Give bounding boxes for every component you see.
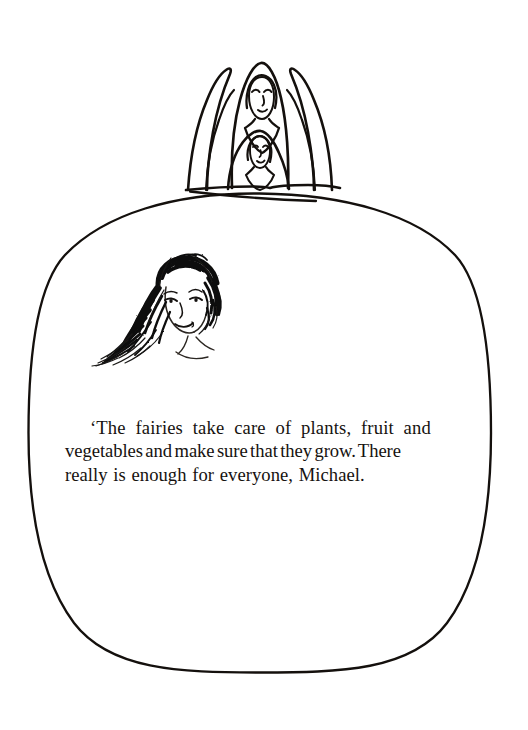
tall-hooded-fairy-collar: [245, 119, 279, 153]
girl-hair-wisps: [92, 258, 217, 366]
passage-text: ‘The fairies take care of plants, fruit …: [65, 416, 465, 486]
passage-line-1: ‘The fairies take care of plants, fruit …: [65, 416, 465, 439]
girl-shoulder-line: [196, 337, 214, 350]
small-hooded-fairy-left-eye: [253, 146, 258, 148]
small-hooded-fairy-right-eye: [263, 146, 268, 148]
girl-left-eye: [165, 298, 177, 301]
girl-face-outline: [165, 287, 194, 333]
illustration-layer: [0, 0, 528, 730]
left-wing: [188, 69, 231, 190]
hill-ridge-line: [186, 185, 340, 190]
hill-ridge-line-lower: [190, 192, 316, 202]
small-hooded-fairy-nose: [260, 150, 262, 157]
right-wing-inner-fold: [287, 90, 315, 190]
girl-neck: [178, 336, 188, 354]
tall-hooded-fairy-nose: [263, 96, 265, 106]
tall-hooded-fairy-left-eye: [252, 90, 260, 92]
left-wing-inner-fold: [206, 90, 234, 190]
small-hooded-fairy-hood: [247, 136, 271, 162]
girl-portrait-sketch: [92, 254, 221, 366]
tall-hooded-fairy-right-eye: [264, 90, 272, 92]
right-wing: [290, 69, 332, 190]
tall-hooded-fairy-mouth: [258, 110, 267, 112]
girl-right-eyebrow: [189, 290, 202, 292]
girl-jawline: [194, 315, 206, 332]
book-page: ‘The fairies take care of plants, fruit …: [0, 0, 528, 730]
girl-mouth: [175, 323, 193, 327]
girl-left-eyebrow: [164, 292, 177, 294]
girl-hair: [103, 254, 221, 363]
girl-nose: [180, 303, 183, 318]
girl-collar-line: [176, 352, 208, 358]
girl-right-eye: [190, 297, 202, 300]
small-hooded-fairy-face: [250, 136, 270, 168]
girl-right-pupil: [194, 298, 197, 302]
small-hooded-fairy-collar: [246, 167, 274, 190]
tall-hooded-fairy-face: [249, 77, 274, 119]
girl-mouth-corner: [192, 322, 194, 327]
passage-line-2: vegetables and make sure that they grow.…: [65, 439, 465, 462]
tall-hooded-fairy-cloak: [232, 63, 288, 188]
fairies-on-hilltop: [186, 63, 340, 201]
small-hooded-fairy-mouth: [257, 161, 265, 163]
passage-line-3: really is enough for everyone, Michael.: [65, 463, 465, 486]
girl-left-pupil: [169, 299, 172, 303]
small-hooded-fairy-cloak: [228, 131, 289, 189]
tall-hooded-fairy-hood: [246, 75, 276, 108]
